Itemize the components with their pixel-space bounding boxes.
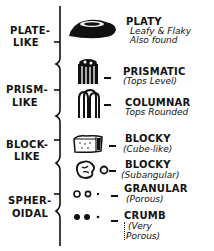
category-label-line1: BLOCK- [6,139,48,150]
type-name: CRUMB [124,211,166,221]
category-label-line1: PRISM- [6,84,48,95]
connector-dash [104,77,111,79]
brace-line [52,6,64,248]
blocky-cube-icon [72,133,104,155]
type-description: (Tops Level) [123,77,177,86]
type-name: BLOCKY [125,134,171,144]
type-description: (Cube-like) [123,145,172,154]
type-description: Tops Rounded [125,108,188,117]
connector-dash [104,104,111,106]
columnar-rounded-columns-icon [76,89,102,119]
type-description: (Porous) [126,195,164,204]
platy-plate-icon [66,16,118,42]
type-description: (Very [128,222,152,231]
prismatic-columns-icon [76,56,102,86]
category-label-line2: LIKE [12,97,38,108]
type-name: GRANULAR [124,184,188,194]
granular-dots-icon [72,187,112,201]
type-description: (Subangular) [121,171,180,180]
connector-dash [109,145,116,147]
connector-dash [109,170,116,172]
category-label-line1: SPHER- [8,195,51,206]
connector-dash [111,195,118,197]
type-description-2: Also found [130,36,178,45]
type-name: BLOCKY [125,160,171,170]
type-description-2: Porous) [126,232,160,241]
blocky-subangular-icon [74,160,110,180]
category-label-line2: LIKE [13,37,39,48]
connector-dash [111,220,118,222]
category-label-line2: OIDAL [12,208,48,219]
category-label-line2: LIKE [14,151,40,162]
category-label-line1: PLATE- [10,25,50,36]
dotted-line [124,222,126,240]
crumb-dots-icon [72,210,112,224]
